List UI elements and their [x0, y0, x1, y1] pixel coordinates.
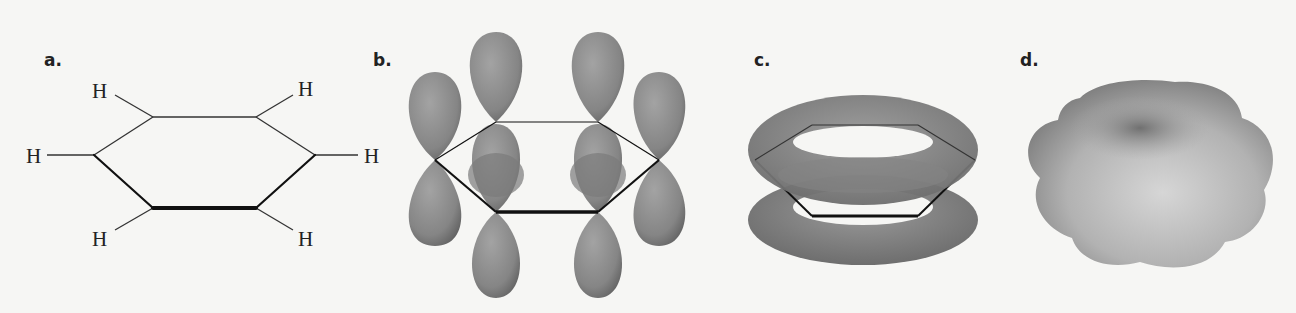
p-orbitals-diagram — [370, 0, 710, 313]
panel-c: c. — [700, 0, 1000, 313]
hydrogen-label: H — [92, 79, 107, 103]
hydrogen-label: H — [298, 227, 313, 251]
electron-density-surface — [980, 0, 1296, 313]
pi-cloud-diagram — [700, 0, 1000, 313]
hydrogen-label: H — [26, 144, 41, 168]
panel-a: a. H H H H H H — [0, 0, 380, 313]
panel-d: d. — [980, 0, 1296, 313]
hydrogen-label: H — [92, 227, 107, 251]
benzene-structure-diagram: H H H H H H — [0, 0, 380, 313]
hydrogen-label: H — [298, 77, 313, 101]
panel-b: b. — [370, 0, 710, 313]
